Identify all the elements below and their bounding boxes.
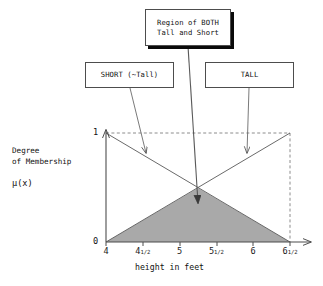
y-tick-label-0: 0 (93, 236, 98, 246)
x-tick-label: 4 (103, 246, 108, 256)
x-tick-label: 5 (177, 246, 182, 256)
x-tick-label: 6 (251, 246, 256, 256)
x-tick-label: 61/2 (283, 246, 298, 257)
tall-leader-arrow (247, 88, 249, 153)
x-tick-label: 51/2 (209, 246, 224, 257)
region-of-both-callout[interactable]: Region of BOTH Tall and Short (145, 9, 231, 46)
tall-callout[interactable]: TALL (205, 62, 294, 88)
region-leader-arrow (188, 46, 198, 203)
y-tick-label-1: 1 (93, 127, 98, 137)
x-axis-title: height in feet (135, 262, 204, 272)
y-axis-label: Degree of Membership (12, 146, 71, 167)
x-tick-label: 41/2 (135, 246, 150, 257)
figure-canvas: Region of BOTH Tall and Short SHORT (~Ta… (0, 0, 323, 286)
x-axis-ticks (106, 242, 290, 246)
short-callout[interactable]: SHORT (~Tall) (85, 62, 174, 88)
short-leader-arrow (130, 88, 146, 153)
y-axis-symbol-label: μ(x) (12, 178, 33, 189)
